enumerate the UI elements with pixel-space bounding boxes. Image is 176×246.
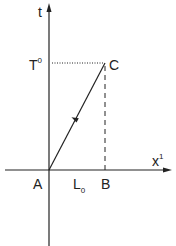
point-a-label: A [33, 176, 43, 192]
t-axis-arrow-icon [47, 3, 52, 12]
point-c-label: C [109, 57, 119, 73]
x-axis-label: x1 [152, 152, 164, 169]
spacetime-diagram: t x1 T0 C A L0 B [0, 0, 176, 246]
point-b-label: B [101, 176, 110, 192]
worldline-ac [49, 63, 105, 170]
t-axis-label: t [38, 4, 42, 20]
t-axis [47, 3, 52, 246]
l0-label: L0 [73, 176, 86, 195]
x-axis [5, 168, 172, 173]
x-axis-arrow-icon [163, 168, 172, 173]
t0-label: T0 [29, 56, 43, 73]
